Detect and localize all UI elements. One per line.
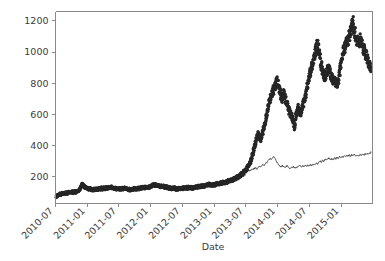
y-tick-label: 400 <box>30 140 48 151</box>
scatter-point <box>351 19 354 22</box>
scatter-point <box>324 77 327 80</box>
x-tick-label: 2013-07 <box>209 205 245 241</box>
scatter-point <box>319 52 322 55</box>
scatter-point <box>341 57 344 60</box>
scatter-point <box>265 113 268 116</box>
scatter-point <box>284 95 287 98</box>
scatter-point <box>263 127 266 130</box>
scatter-point <box>304 93 307 96</box>
scatter-point <box>302 105 305 108</box>
scatter-point <box>352 22 355 25</box>
x-tick-label: 2014-01 <box>241 205 277 241</box>
scatter-point <box>365 50 368 53</box>
y-tick-label: 600 <box>30 109 48 120</box>
x-tick-label: 2014-07 <box>273 205 309 241</box>
y-tick-label: 1200 <box>24 15 48 26</box>
scatter-point <box>312 62 315 65</box>
scatter-point <box>337 82 340 85</box>
scatter-point <box>320 60 323 63</box>
scatter-point <box>317 43 320 46</box>
y-tick-label: 200 <box>30 171 48 182</box>
y-axis-ticks: 20040060080010001200 <box>24 15 55 182</box>
scatter-point <box>329 67 332 70</box>
scatter-point <box>337 78 340 81</box>
scatter-point <box>319 57 322 60</box>
scatter-point <box>339 66 342 69</box>
chart-figure: 20040060080010001200 2010-072011-012011-… <box>0 0 385 261</box>
scatter-point <box>358 32 361 35</box>
scatter-point <box>347 43 350 46</box>
scatter-point <box>369 62 372 65</box>
data-layer <box>54 15 372 199</box>
line-series <box>245 152 371 176</box>
scatter-point <box>303 99 306 102</box>
x-tick-label: 2010-07 <box>19 205 55 241</box>
scatter-point <box>354 26 357 29</box>
scatter-point <box>250 157 253 160</box>
axes-spines <box>56 12 373 204</box>
y-tick-label: 1000 <box>24 46 48 57</box>
scatter-point <box>343 51 346 54</box>
x-tick-label: 2015-01 <box>305 205 341 241</box>
x-tick-label: 2011-07 <box>82 205 118 241</box>
chart-plot-area: 20040060080010001200 2010-072011-012011-… <box>0 0 385 261</box>
x-tick-label: 2013-01 <box>178 205 214 241</box>
x-tick-label: 2012-01 <box>114 205 150 241</box>
scatter-point <box>261 133 264 136</box>
scatter-point <box>369 70 372 73</box>
scatter-point <box>252 149 255 152</box>
scatter-series <box>54 15 372 199</box>
x-tick-label: 2011-01 <box>51 205 87 241</box>
scatter-point <box>277 79 280 82</box>
scatter-point <box>352 15 355 18</box>
x-axis-title: Date <box>202 241 225 252</box>
scatter-point <box>260 136 263 139</box>
scatter-point <box>267 108 270 111</box>
scatter-point <box>307 79 310 82</box>
scatter-point <box>275 75 278 78</box>
scatter-point <box>316 39 319 42</box>
scatter-point <box>366 56 369 59</box>
x-tick-label: 2012-07 <box>146 205 182 241</box>
scatter-point <box>306 86 309 89</box>
scatter-point <box>353 30 356 33</box>
scatter-point <box>294 122 297 125</box>
scatter-point <box>348 39 351 42</box>
scatter-point <box>318 48 321 51</box>
y-tick-label: 800 <box>30 78 48 89</box>
x-axis-ticks: 2010-072011-012011-072012-012012-072013-… <box>19 204 341 241</box>
scatter-point <box>338 74 341 77</box>
scatter-point <box>361 39 364 42</box>
scatter-point <box>272 93 275 96</box>
scatter-point <box>366 53 369 56</box>
scatter-point <box>291 115 294 118</box>
